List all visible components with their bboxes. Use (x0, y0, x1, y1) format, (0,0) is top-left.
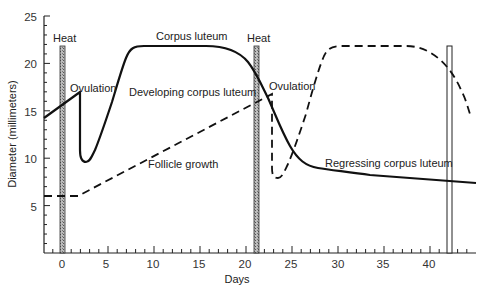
annotation-heat-2: Heat (247, 32, 270, 44)
heat-bar-day-42 (447, 46, 452, 253)
annotation-regressing-corpus-luteum: Regressing corpus luteum (325, 157, 453, 169)
x-axis-title: Days (224, 273, 250, 285)
y-tick-25: 25 (24, 11, 37, 23)
x-tick-25: 25 (285, 258, 298, 270)
x-tick-5: 5 (103, 258, 109, 270)
y-axis (44, 16, 50, 253)
x-tick-15: 15 (193, 258, 206, 270)
x-tick-0: 0 (59, 258, 65, 270)
annotation-ovulation-1: Ovulation (70, 82, 116, 94)
x-tick-35: 35 (377, 258, 390, 270)
x-tick-40: 40 (423, 258, 436, 270)
annotation-follicle-growth: Follicle growth (148, 158, 218, 170)
x-axis (44, 246, 476, 253)
y-tick-20: 20 (24, 58, 37, 70)
x-tick-20: 20 (239, 258, 252, 270)
annotation-corpus-luteum: Corpus luteum (156, 30, 228, 42)
y-tick-15: 15 (24, 106, 37, 118)
y-tick-labels: 5 10 15 20 25 (24, 11, 37, 213)
annotation-heat-1: Heat (53, 32, 76, 44)
annotation-ovulation-2: Ovulation (269, 80, 315, 92)
y-axis-title: Diameter (millimeters) (6, 80, 18, 188)
x-tick-30: 30 (332, 258, 345, 270)
x-tick-10: 10 (147, 258, 160, 270)
heat-bar-day-0 (60, 46, 65, 253)
annotation-developing-corpus-luteum: Developing corpus luteum (129, 86, 256, 98)
x-tick-labels: 0 5 10 15 20 25 30 35 40 (59, 258, 436, 270)
y-tick-5: 5 (31, 201, 37, 213)
y-tick-10: 10 (24, 153, 37, 165)
ovarian-cycle-chart: 5 10 15 20 25 0 5 10 15 20 25 30 35 40 D… (0, 0, 495, 296)
